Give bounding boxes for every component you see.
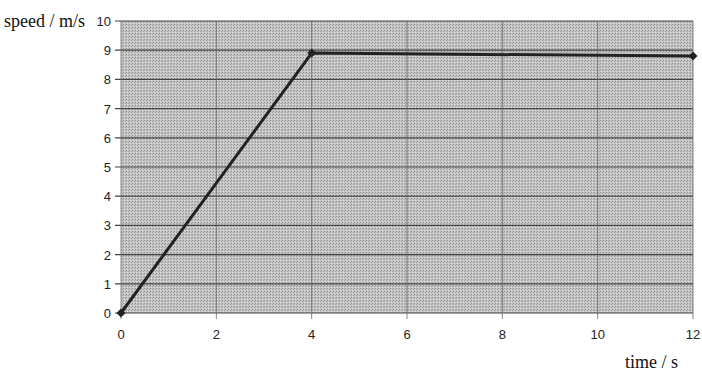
y-tick-label: 4	[104, 189, 111, 204]
y-tick-label: 0	[104, 306, 111, 321]
y-tick-label: 10	[97, 14, 111, 29]
x-tick-label: 12	[686, 327, 700, 342]
x-tick-label: 4	[308, 327, 315, 342]
y-tick-label: 7	[104, 102, 111, 117]
speed-time-chart: 012345678910 024681012	[0, 0, 702, 379]
x-tick-label: 0	[117, 327, 124, 342]
y-tick-label: 6	[104, 131, 111, 146]
y-tick-label: 5	[104, 160, 111, 175]
y-tick-label: 3	[104, 218, 111, 233]
y-tick-label: 8	[104, 72, 111, 87]
x-tick-label: 2	[213, 327, 220, 342]
x-tick-label: 10	[590, 327, 604, 342]
y-tick-labels: 012345678910	[97, 14, 111, 321]
y-tick-label: 9	[104, 43, 111, 58]
x-tick-label: 8	[499, 327, 506, 342]
x-tick-labels: 024681012	[117, 327, 700, 342]
y-tick-label: 2	[104, 248, 111, 263]
y-tick-label: 1	[104, 277, 111, 292]
x-tick-label: 6	[403, 327, 410, 342]
